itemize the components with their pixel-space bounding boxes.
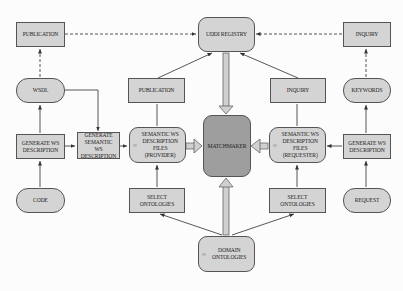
node-label: PUBLICATION [23,31,59,38]
domain-ontologies-node: ☼DOMAIN ONTOLOGIES [198,236,255,272]
node-label: INQUIRY [287,87,310,94]
publication-node-left: PUBLICATION [16,22,65,47]
code-node: CODE [16,188,65,213]
node-label: DOMAIN ONTOLOGIES [206,247,252,261]
node-label: REQUEST [355,197,379,204]
node-label: SELECT ONTOLOGIES [132,194,182,208]
node-label: GENERATE WS DESCRIPTION [346,140,388,154]
node-label: WSDL [33,87,48,94]
semantic-ws-provider-node: ☼SEMANTIC WS DESCRIPTION FILES (PROVIDER… [129,127,186,163]
keywords-node: KEYWORDS [343,78,391,103]
node-label: INQUIRY [356,31,379,38]
generate-ws-description-node-right: GENERATE WS DESCRIPTION [343,134,391,159]
node-label: PUBLICATION [139,87,175,94]
node-label: SEMANTIC WS DESCRIPTION FILES (PROVIDER) [137,131,183,159]
node-label: CODE [33,197,48,204]
node-label: UDDI REGISTRY [206,31,247,38]
select-ontologies-node-right: SELECT ONTOLOGIES [269,188,326,213]
architecture-diagram: PUBLICATION UDDI REGISTRY INQUIRY WSDL P… [0,0,403,291]
wsdl-node: WSDL [16,78,65,103]
generate-ws-description-node-left: GENERATE WS DESCRIPTION [16,134,65,159]
uddi-registry-node: UDDI REGISTRY [198,17,255,52]
inquiry-node-right: INQUIRY [343,22,391,47]
generate-semantic-ws-description-node: GENERATE SEMANTIC WS DESCRIPTION [77,132,120,159]
node-label: SELECT ONTOLOGIES [272,194,323,208]
request-node: REQUEST [343,188,391,213]
node-label: GENERATE SEMANTIC WS DESCRIPTION [80,132,117,160]
select-ontologies-node-left: SELECT ONTOLOGIES [129,188,185,213]
publication-node-mid: PUBLICATION [128,78,185,103]
matchmaker-node: MATCHMAKER [203,115,251,177]
inquiry-node-mid: INQUIRY [270,78,326,103]
node-label: SEMANTIC WS DESCRIPTION FILES (REQUESTER… [277,131,323,159]
node-label: KEYWORDS [352,87,383,94]
node-label: MATCHMAKER [208,143,247,150]
node-label: GENERATE WS DESCRIPTION [19,140,62,154]
semantic-ws-requester-node: ☼SEMANTIC WS DESCRIPTION FILES (REQUESTE… [269,127,326,163]
